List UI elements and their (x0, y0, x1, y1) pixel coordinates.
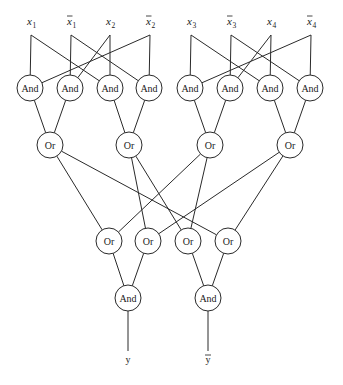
wire-nx4-and5 (202, 35, 311, 83)
and-gate-and1: And (17, 75, 43, 101)
wire-or2-or7 (136, 156, 181, 230)
or-gate-or3: Or (197, 132, 223, 158)
gate-label: And (261, 83, 278, 94)
and-gate-and8: And (297, 75, 323, 101)
wire-or3-or5 (118, 154, 200, 232)
wire-or6-andY (132, 253, 143, 285)
wire-and5-or3 (194, 100, 205, 132)
wire-or4-or8 (235, 156, 283, 230)
input-x4: x4 (266, 15, 276, 30)
wire-and1-or1 (34, 100, 45, 132)
input-label: x1 (26, 15, 36, 30)
input-nx1: x1 (66, 15, 76, 30)
input-label: x4 (306, 15, 316, 30)
circuit-svg: AndAndAndAndAndAndAndAndOrOrOrOrOrOrOrOr… (0, 0, 343, 385)
output-label: y (206, 354, 211, 365)
wire-nx2-and4 (149, 35, 150, 75)
gate-label: And (181, 83, 198, 94)
gate-label: And (221, 83, 238, 94)
input-label: x3 (226, 15, 236, 30)
or-gate-or8: Or (215, 228, 241, 254)
input-nx2: x2 (145, 15, 155, 30)
and-gate-and4: And (136, 75, 162, 101)
gate-label: And (61, 83, 78, 94)
input-x2: x2 (105, 15, 115, 30)
gate-label: And (119, 293, 136, 304)
wire-and8-or4 (294, 100, 305, 132)
gate-label: Or (143, 236, 154, 247)
input-x3: x3 (186, 15, 196, 30)
and-gate-andNY: And (195, 285, 221, 311)
or-gate-or5: Or (96, 228, 122, 254)
and-gate-and6: And (217, 75, 243, 101)
wire-x2-and2 (78, 35, 110, 78)
or-gate-or2: Or (116, 132, 142, 158)
gate-label: Or (205, 140, 216, 151)
wire-and7-or4 (274, 100, 285, 132)
gate-label: Or (285, 140, 296, 151)
wire-nx4-and8 (310, 35, 311, 75)
gate-label: And (21, 83, 38, 94)
input-label: x2 (145, 15, 155, 30)
input-nx3: x3 (226, 15, 236, 30)
or-gate-or4: Or (277, 132, 303, 158)
and-gate-and3: And (97, 75, 123, 101)
wire-or1-or8 (61, 151, 216, 235)
and-gate-andY: And (115, 285, 141, 311)
input-label: x1 (66, 15, 76, 30)
output-y: y (126, 354, 131, 365)
wire-x4-and7 (270, 35, 271, 75)
wire-and3-or2 (114, 100, 125, 132)
gates: AndAndAndAndAndAndAndAndOrOrOrOrOrOrOrOr… (17, 75, 323, 311)
wire-x3-and5 (190, 35, 191, 75)
wire-or5-andY (113, 253, 124, 285)
wire-nx2-and1 (42, 35, 150, 83)
wire-x1-and3 (31, 35, 99, 81)
wire-or7-andNY (192, 253, 203, 285)
and-gate-and7: And (257, 75, 283, 101)
wire-x3-and7 (191, 35, 259, 81)
gate-label: And (301, 83, 318, 94)
or-gate-or1: Or (37, 132, 63, 158)
wire-and2-or1 (54, 100, 65, 132)
output-label: y (126, 354, 131, 365)
wire-and6-or3 (214, 100, 225, 132)
wire-or4-or6 (159, 152, 279, 233)
input-nx4: x4 (306, 15, 316, 30)
gate-label: Or (223, 236, 234, 247)
output-ny: y (205, 354, 211, 365)
wire-nx3-and6 (230, 35, 231, 75)
input-label: x2 (105, 15, 115, 30)
and-gate-and2: And (57, 75, 83, 101)
input-x1: x1 (26, 15, 36, 30)
gate-label: And (199, 293, 216, 304)
gate-label: Or (183, 236, 194, 247)
gate-label: Or (104, 236, 115, 247)
gate-label: Or (124, 140, 135, 151)
wire-or3-or7 (191, 158, 207, 229)
wire-x4-and6 (238, 35, 271, 78)
gate-label: And (101, 83, 118, 94)
gate-label: And (140, 83, 157, 94)
wire-or8-andNY (212, 253, 223, 285)
or-gate-or7: Or (175, 228, 201, 254)
input-label: x3 (186, 15, 196, 30)
input-labels: x1x1x2x2x3x3x4x4 (26, 15, 316, 30)
or-gate-or6: Or (135, 228, 161, 254)
output-labels: yy (126, 354, 212, 365)
logic-circuit-diagram: AndAndAndAndAndAndAndAndOrOrOrOrOrOrOrOr… (0, 0, 343, 385)
wire-x1-and1 (30, 35, 31, 75)
and-gate-and5: And (177, 75, 203, 101)
wire-or1-or5 (57, 156, 102, 230)
wire-and4-or2 (133, 100, 144, 132)
wire-nx1-and2 (70, 35, 71, 75)
input-label: x4 (266, 15, 276, 30)
gate-label: Or (45, 140, 56, 151)
